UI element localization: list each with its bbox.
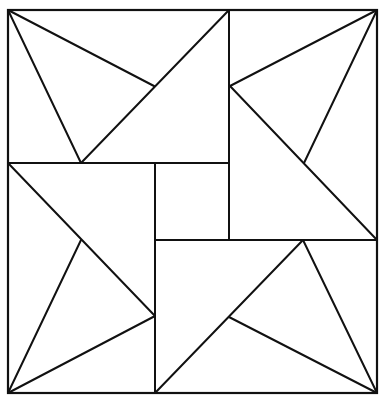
pattern-line — [229, 317, 377, 393]
pattern-line — [8, 10, 154, 86]
pattern-line — [304, 10, 377, 163]
pattern-line — [155, 240, 303, 393]
pattern-line — [8, 240, 81, 393]
pattern-line — [303, 240, 377, 393]
pattern-line — [230, 86, 377, 240]
pattern-line — [230, 10, 377, 86]
quilt-block-diagram — [0, 0, 384, 400]
pattern-line — [8, 316, 155, 393]
outer-square — [8, 10, 377, 393]
pattern-line — [8, 163, 155, 316]
pattern-line — [8, 10, 81, 163]
pattern-lines — [8, 10, 377, 393]
pattern-line — [81, 10, 229, 163]
